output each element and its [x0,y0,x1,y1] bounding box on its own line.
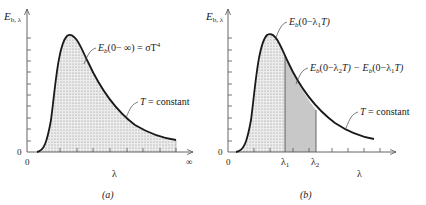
panel-b-constant-temperature-annotation: T = constant [360,106,410,117]
panel-b-caption: (b) [300,189,312,201]
panel-b-x-axis-label: λ [357,168,362,179]
panel-b-lambda1-emission-annotation: Eb(0−λ1T) [288,16,330,29]
panel-b: Eb, λ 0 0 λ1 λ2 λ Eb(0−λ1T) Eb(0−λ2T) − … [205,9,410,201]
panel-a-caption: (a) [102,189,114,201]
panel-b-lambda1-label: λ1 [281,156,290,169]
panel-a-x-origin-label: 0 [25,157,30,167]
panel-b-y-origin-label: 0 [218,147,223,157]
blackbody-emission-figure: Eb, λ 0 0 ∞ λ Eb(0− ∞) = σT4 T = constan… [0,0,426,205]
panel-b-lambda2-label: λ2 [311,156,320,169]
panel-a-y-axis-label: Eb, λ [3,10,22,24]
panel-b-y-ticks [228,38,232,141]
panel-b-x-origin-label: 0 [226,157,231,167]
panel-a: Eb, λ 0 0 ∞ λ Eb(0− ∞) = σT4 T = constan… [3,9,193,201]
panel-a-total-emission-annotation: Eb(0− ∞) = σT4 [97,41,161,55]
panel-a-y-origin-label: 0 [17,147,22,157]
panel-b-y-axis-label: Eb, λ [205,10,224,24]
panel-a-constant-temperature-annotation: T = constant [140,96,190,107]
panel-a-x-axis-label: λ [112,168,117,179]
panel-b-shaded-area-0-to-lambda1 [239,34,285,152]
panel-a-y-ticks [27,38,31,141]
panel-b-band-emission-annotation: Eb(0−λ2T) − Eb(0−λ1T) [309,62,404,75]
panel-a-x-end-label: ∞ [186,157,192,167]
